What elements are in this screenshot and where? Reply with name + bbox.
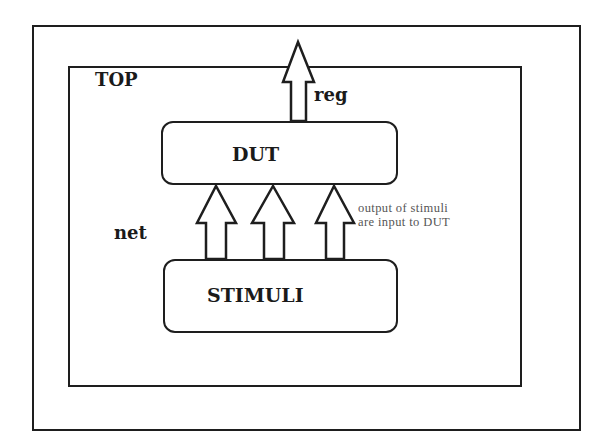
reg-label: reg: [314, 86, 348, 104]
net-input-arrow-2-icon: [252, 186, 294, 259]
net-label: net: [114, 224, 147, 242]
arrows-layer: [0, 0, 609, 448]
annotation-line-2: are input to DUT: [358, 216, 450, 229]
annotation-line-1: output of stimuli: [358, 202, 448, 215]
reg-output-arrow-icon: [283, 42, 314, 121]
net-input-arrow-1-icon: [197, 186, 236, 259]
net-input-arrow-3-icon: [316, 186, 354, 259]
